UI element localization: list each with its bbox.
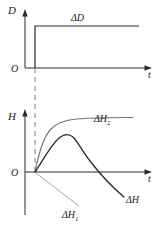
- top-panel-origin-label: O: [11, 63, 18, 74]
- bottom-panel-origin-label: O: [11, 167, 18, 178]
- two-panel-response-figure: D t O ΔD: [0, 0, 162, 229]
- initial-response-leader-line: [36, 173, 79, 206]
- initial-response-label-main: ΔH: [61, 209, 76, 220]
- total-response-label: ΔH: [125, 194, 140, 205]
- saturating-response-curve: [35, 118, 133, 173]
- figure-container: D t O ΔD: [0, 0, 162, 229]
- step-response-label: ΔD: [70, 12, 85, 23]
- saturating-response-label: ΔH2: [93, 113, 111, 127]
- top-panel-y-axis-label: D: [7, 4, 16, 16]
- saturating-response-label-subscript: 2: [107, 119, 111, 127]
- top-panel-x-axis-label: t: [148, 69, 151, 80]
- top-panel-y-axis: [22, 9, 27, 68]
- bottom-panel-y-axis-label: H: [7, 110, 17, 122]
- bottom-panel: H t O ΔH2 ΔH ΔH1: [7, 109, 152, 223]
- step-response-curve: [35, 26, 139, 68]
- top-panel-x-axis: [25, 65, 152, 70]
- saturating-response-label-main: ΔH: [93, 113, 108, 124]
- initial-response-label: ΔH1: [61, 209, 79, 223]
- initial-response-label-subscript: 1: [75, 215, 79, 223]
- total-response-curve: [35, 135, 124, 197]
- top-panel: D t O ΔD: [7, 4, 152, 80]
- bottom-panel-x-axis: [25, 169, 152, 174]
- bottom-panel-x-axis-label: t: [148, 173, 151, 184]
- bottom-panel-y-axis: [22, 109, 27, 215]
